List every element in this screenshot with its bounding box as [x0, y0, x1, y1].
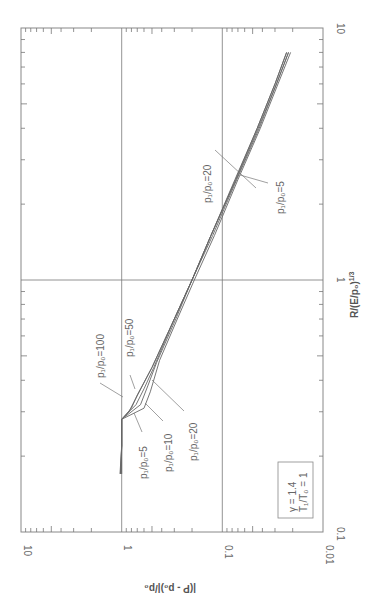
series-line [121, 52, 286, 474]
series-line [121, 52, 289, 474]
legend-gamma: γ = 1.4 [287, 481, 298, 512]
x-tick-label-1: 1 [335, 277, 346, 283]
chart: 10 1 0.1 0.01 0.1 1 10 R/(E/p₀)1/3 |(P -… [0, 0, 383, 604]
data-series [120, 52, 291, 474]
y-tick-label-1: 1 [122, 545, 133, 551]
annotation-p1-10: p₁/p₀=10 [163, 433, 174, 472]
y-tick-label-0.01: 0.01 [324, 545, 335, 565]
x-tick-label-10: 10 [335, 23, 346, 35]
legend-temperature: T₁/T₀ = 1 [298, 472, 309, 512]
y-tick-label-0.1: 0.1 [223, 545, 234, 559]
annotation-p1-5-lower: p₁/p₀=5 [138, 446, 149, 479]
series-line [120, 52, 291, 474]
annotation-p1-100: p₁/p₀=100 [95, 334, 106, 378]
annotation-p1-20-upper: p₁/p₀=20 [202, 164, 213, 203]
annotation-leaders [100, 150, 268, 432]
annotation-p1-20-lower: p₁/p₀=20 [188, 422, 199, 461]
y-tick-label-10: 10 [22, 545, 33, 557]
annotation-p1-5-upper: p₁/p₀=5 [275, 181, 286, 214]
annotation-p1-50: p₁/p₀=50 [124, 318, 135, 357]
y-axis-title: |(P - p₀)|/p₀ [144, 583, 196, 594]
x-tick-label-0.1: 0.1 [335, 527, 346, 541]
x-axis-title: R/(E/p₀)1/3 [348, 271, 360, 318]
